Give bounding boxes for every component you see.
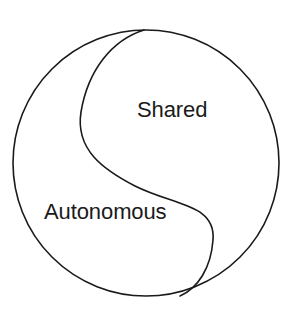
region-label-shared: Shared bbox=[137, 99, 207, 121]
diagram-canvas: Shared Autonomous bbox=[0, 0, 293, 324]
s-curve-divider bbox=[80, 30, 213, 296]
outer-circle bbox=[13, 30, 279, 296]
region-label-autonomous: Autonomous bbox=[44, 201, 167, 223]
divided-circle-svg bbox=[0, 0, 293, 324]
